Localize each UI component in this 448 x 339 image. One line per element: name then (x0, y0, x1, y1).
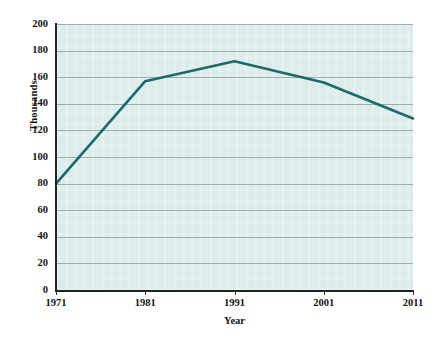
data-series-layer (56, 24, 413, 290)
y-axis-tick-label: 200 (14, 19, 48, 30)
y-axis-tick-label: 100 (14, 152, 48, 163)
y-axis-tick-label: 80 (14, 178, 48, 189)
y-axis-tick-label: 40 (14, 231, 48, 242)
x-axis-tick-label: 1991 (205, 297, 265, 308)
x-axis-tick (56, 291, 57, 295)
x-axis-tick-label: 1981 (115, 297, 175, 308)
y-axis-tick-label: 140 (14, 98, 48, 109)
plot-area (56, 24, 413, 290)
y-axis-tick-labels: 020406080100120140160180200 (0, 0, 48, 339)
x-axis-tick-label: 2011 (383, 297, 443, 308)
y-axis-tick-label: 20 (14, 258, 48, 269)
y-axis-tick-label: 60 (14, 205, 48, 216)
line-chart: Thousands 020406080100120140160180200 19… (0, 0, 448, 339)
x-axis-tick (413, 291, 414, 295)
y-axis-tick-label: 160 (14, 72, 48, 83)
y-axis-tick-label: 0 (14, 285, 48, 296)
y-axis-line (55, 23, 57, 291)
series-line (56, 61, 413, 183)
x-axis-title: Year (195, 315, 275, 326)
y-axis-tick-label: 180 (14, 45, 48, 56)
x-axis-tick (235, 291, 236, 295)
x-axis-tick (145, 291, 146, 295)
y-axis-tick-label: 120 (14, 125, 48, 136)
x-axis-tick (324, 291, 325, 295)
x-axis-tick-label: 2001 (294, 297, 354, 308)
x-axis-tick-label: 1971 (26, 297, 86, 308)
